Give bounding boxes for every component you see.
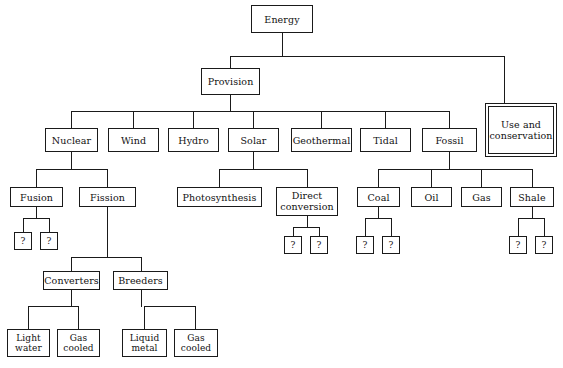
node-converters[interactable]: Converters xyxy=(43,271,100,290)
node-liquid-metal[interactable]: Liquid metal xyxy=(122,329,167,357)
edge-bus-geothermal xyxy=(321,111,322,128)
node-direct-conversion[interactable]: Direct conversion xyxy=(276,187,338,216)
node-tidal[interactable]: Tidal xyxy=(360,128,411,152)
edge-bus-gas xyxy=(481,169,482,187)
edge-breeders-liquidmetal xyxy=(144,306,145,329)
edge-bus-breeders xyxy=(141,257,142,271)
edge-bus-hydro xyxy=(193,111,194,128)
edge-bus-solar xyxy=(253,111,254,128)
node-question-shale-1[interactable]: ? xyxy=(509,236,527,254)
edge-fusion-q2 xyxy=(49,218,50,232)
edge-bus-converters xyxy=(71,257,72,271)
edge-bus-oil xyxy=(431,169,432,187)
edge-solar-down xyxy=(253,152,254,170)
edge-coal-q2 xyxy=(391,218,392,236)
node-fusion[interactable]: Fusion xyxy=(10,187,63,207)
energy-hierarchy-diagram: Energy Provision Use and conservation Nu… xyxy=(0,0,563,368)
edge-level1-bus xyxy=(230,56,505,57)
node-fission[interactable]: Fission xyxy=(79,187,136,207)
node-gas[interactable]: Gas xyxy=(461,187,502,207)
node-photosynthesis[interactable]: Photosynthesis xyxy=(177,187,262,207)
node-nuclear[interactable]: Nuclear xyxy=(45,128,98,152)
edge-fossil-down xyxy=(449,152,450,170)
node-hydro[interactable]: Hydro xyxy=(168,128,219,152)
edge-fission-down xyxy=(107,206,108,258)
edge-converters-gascooled xyxy=(78,306,79,329)
node-gas-cooled-converters[interactable]: Gas cooled xyxy=(57,329,100,357)
edge-shale-q2 xyxy=(544,218,545,236)
node-question-shale-2[interactable]: ? xyxy=(535,236,553,254)
edge-breeders-bus xyxy=(144,306,196,307)
edge-bus-to-provision xyxy=(230,56,231,68)
edge-provision-down xyxy=(230,95,231,112)
edge-coal-q1 xyxy=(365,218,366,236)
edge-bus-shale xyxy=(532,169,533,187)
node-light-water[interactable]: Light water xyxy=(7,329,50,357)
node-question-direct-2[interactable]: ? xyxy=(310,236,328,254)
node-wind[interactable]: Wind xyxy=(108,128,159,152)
node-coal[interactable]: Coal xyxy=(357,187,400,207)
node-gas-cooled-breeders[interactable]: Gas cooled xyxy=(174,329,218,357)
edge-converters-bus xyxy=(28,306,79,307)
edge-bus-photosynthesis xyxy=(219,169,220,187)
edge-bus-fossil xyxy=(449,111,450,128)
node-question-direct-1[interactable]: ? xyxy=(284,236,302,254)
edge-bus-coal xyxy=(378,169,379,187)
edge-bus-direct-conversion xyxy=(307,169,308,187)
node-question-fusion-1[interactable]: ? xyxy=(14,232,32,250)
edge-nuclear-down xyxy=(71,152,72,170)
edge-coal-bus xyxy=(365,218,392,219)
edge-fossil-bus xyxy=(378,169,533,170)
edge-bus-nuclear xyxy=(71,111,72,128)
edge-solar-bus xyxy=(219,169,308,170)
node-fossil[interactable]: Fossil xyxy=(422,128,477,152)
edge-fusion-q1 xyxy=(23,218,24,232)
edge-nuclear-bus xyxy=(36,169,108,170)
edge-converters-down xyxy=(71,290,72,307)
edge-direct-q2 xyxy=(319,227,320,236)
edge-bus-fission xyxy=(107,169,108,187)
node-breeders[interactable]: Breeders xyxy=(113,271,168,290)
edge-converters-lightwater xyxy=(28,306,29,329)
node-shale[interactable]: Shale xyxy=(510,187,554,207)
edge-bus-tidal xyxy=(385,111,386,128)
edge-direct-q1 xyxy=(293,227,294,236)
edge-fusion-bus xyxy=(23,218,50,219)
edge-bus-fusion xyxy=(36,169,37,187)
edge-breeders-gascooled xyxy=(195,306,196,329)
edge-breeders-down xyxy=(141,290,142,307)
node-question-coal-2[interactable]: ? xyxy=(382,236,400,254)
edge-fission-bus xyxy=(71,257,142,258)
edge-bus-wind xyxy=(133,111,134,128)
edge-direct-bus xyxy=(293,227,320,228)
node-question-fusion-2[interactable]: ? xyxy=(40,232,58,250)
node-provision[interactable]: Provision xyxy=(201,68,260,95)
node-use-and-conservation-label: Use and conservation xyxy=(488,106,553,154)
edge-energy-down xyxy=(282,33,283,57)
node-geothermal[interactable]: Geothermal xyxy=(291,128,352,152)
node-use-and-conservation[interactable]: Use and conservation xyxy=(485,103,557,157)
edge-bus-to-use xyxy=(504,56,505,103)
edge-shale-q1 xyxy=(518,218,519,236)
edge-shale-bus xyxy=(518,218,545,219)
node-question-coal-1[interactable]: ? xyxy=(356,236,374,254)
edge-level2-bus xyxy=(71,111,450,112)
node-solar[interactable]: Solar xyxy=(228,128,279,152)
node-energy[interactable]: Energy xyxy=(251,5,313,33)
node-oil[interactable]: Oil xyxy=(411,187,452,207)
